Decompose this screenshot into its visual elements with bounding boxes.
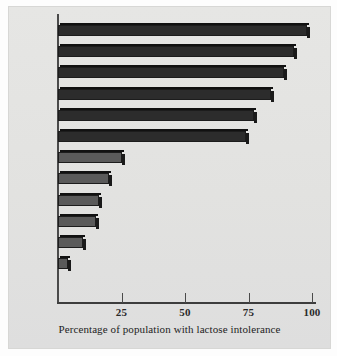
x-tick-50 [185,293,186,303]
bar-side-face [109,175,112,186]
x-axis-label: Percentage of population with lactose in… [9,323,330,335]
bar [58,216,96,227]
bar-side-face [246,133,249,144]
x-tick-25 [122,293,123,303]
x-tick-label-75: 75 [229,306,269,318]
x-tick-100 [312,293,313,303]
bar-top-face [60,108,256,110]
bar-top-face [60,235,85,237]
bar-side-face [294,48,297,59]
bar [58,258,68,269]
bar-side-face [284,69,287,80]
bar-top-face [60,171,111,173]
bar [58,195,99,206]
bar-side-face [307,27,310,38]
bar [58,110,254,121]
bar [58,131,246,142]
bar [58,152,122,163]
bar-side-face [254,112,257,123]
bar-side-face [99,197,102,208]
bar-top-face [60,87,273,89]
bar-side-face [96,218,99,229]
bar [58,237,83,248]
bar-top-face [60,256,70,258]
bar-top-face [60,65,286,67]
bar-top-face [60,150,124,152]
plot-area: 255075100 ThaiIboYorubaChineseGandaHausa… [0,0,337,356]
bar-top-face [60,44,296,46]
x-tick-75 [249,293,250,303]
figure: 255075100 ThaiIboYorubaChineseGandaHausa… [0,0,337,356]
bar-top-face [60,214,98,216]
bar [58,173,109,184]
bar-side-face [68,260,71,271]
bar-side-face [83,239,86,250]
bar-top-face [60,23,309,25]
bar [58,89,271,100]
x-tick-label-50: 50 [165,306,205,318]
x-tick-label-100: 100 [292,306,332,318]
bar-side-face [271,91,274,102]
bar-top-face [60,129,248,131]
bar-side-face [122,154,125,165]
x-tick-label-25: 25 [102,306,142,318]
bar [58,46,294,57]
bar [58,67,284,78]
x-axis-line [57,302,316,304]
bar-top-face [60,193,101,195]
bar [58,25,307,36]
